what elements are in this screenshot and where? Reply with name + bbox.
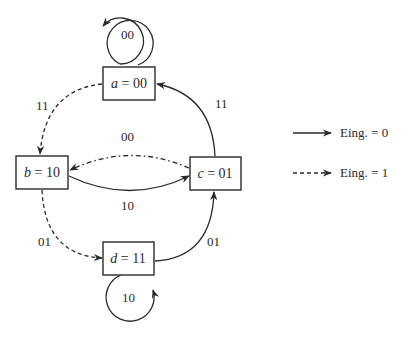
node-b: b = 10 [16,156,68,189]
edge-c-a: 11 [157,84,228,156]
edge-a-a: 00 [103,18,153,65]
edge-b-d: 01 [38,190,102,258]
svg-text:d = 11: d = 11 [110,251,145,266]
svg-text:a = 00: a = 00 [111,76,147,91]
edge-label-d-d: 10 [122,290,135,305]
edge-label-b-c: 10 [121,198,134,213]
edge-label-d-c: 01 [207,234,220,249]
edge-d-c: 01 [155,192,220,261]
node-d-code: 11 [132,251,145,266]
edge-a-b: 11 [36,84,102,154]
edge-label-a-b: 11 [36,98,49,113]
edge-label-c-b: 00 [121,129,134,144]
node-a-code: 00 [133,76,147,91]
node-a: a = 00 [103,67,155,100]
node-b-code: 10 [46,165,60,180]
legend-label-solid: Eing. = 0 [340,125,388,140]
svg-text:b = 10: b = 10 [24,165,60,180]
edge-c-b: 00 [70,129,189,170]
node-c-code: 01 [219,166,233,181]
legend: Eing. = 0 Eing. = 1 [293,125,388,180]
node-d: d = 11 [103,242,154,275]
edge-label-c-a: 11 [215,96,228,111]
edge-d-d: 10 [106,275,154,321]
legend-item-solid: Eing. = 0 [293,125,388,140]
node-a-var: a [111,76,118,91]
legend-label-dashed: Eing. = 1 [340,165,388,180]
svg-text:c = 01: c = 01 [197,166,232,181]
node-b-var: b [24,165,31,180]
edge-b-c: 10 [69,176,189,213]
edge-label-b-d: 01 [38,234,51,249]
legend-item-dashed: Eing. = 1 [293,165,388,180]
node-c: c = 01 [190,157,241,190]
edge-label-a-a: 00 [121,27,134,42]
state-diagram: 00 11 11 00 10 01 01 10 a = 00 [0,0,409,337]
